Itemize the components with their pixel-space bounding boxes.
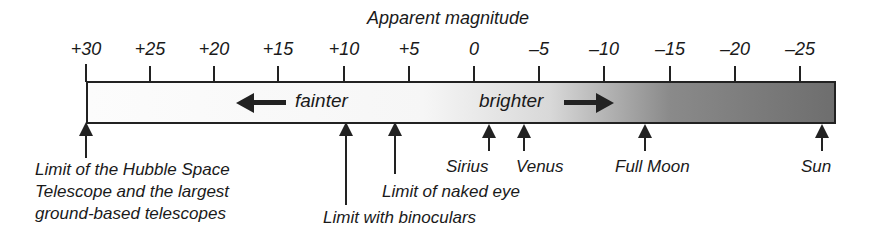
tick-label: –5: [529, 39, 549, 60]
tick-mark: [473, 66, 475, 82]
magnitude-gradient-bar: [86, 81, 836, 124]
annotation-hubble: Limit of the Hubble Space Telescope and …: [35, 159, 230, 225]
up-arrow-icon: [85, 124, 87, 158]
annotation-sirius: Sirius: [446, 156, 489, 178]
annotation-naked-eye: Limit of naked eye: [382, 181, 520, 203]
up-arrow-icon: [523, 126, 525, 151]
tick-mark: [343, 66, 345, 82]
tick-mark: [213, 66, 215, 82]
tick-label: +20: [199, 39, 230, 60]
up-arrow-icon: [345, 124, 347, 205]
magnitude-diagram: Apparent magnitude +30 +25 +20 +15 +10 +…: [0, 0, 878, 251]
annotation-venus: Venus: [516, 156, 564, 178]
up-arrow-icon: [488, 126, 490, 151]
brighter-label: brighter: [479, 90, 543, 112]
tick-mark: [734, 66, 736, 82]
annotation-binoculars: Limit with binoculars: [323, 207, 476, 229]
annotation-sun: Sun: [801, 156, 831, 178]
tick-mark: [669, 66, 671, 82]
annotation-line: Telescope and the largest: [35, 181, 230, 203]
tick-label: –25: [785, 39, 815, 60]
tick-label: +10: [329, 39, 360, 60]
tick-label: –15: [655, 39, 685, 60]
right-arrow-icon: [564, 93, 614, 113]
diagram-title: Apparent magnitude: [367, 8, 529, 29]
tick-mark: [85, 64, 87, 82]
tick-mark: [149, 66, 151, 82]
tick-label: +5: [399, 39, 420, 60]
annotation-full-moon: Full Moon: [615, 156, 690, 178]
tick-mark: [799, 66, 801, 82]
left-arrow-icon: [236, 93, 286, 113]
tick-label: +25: [135, 39, 166, 60]
tick-label: +15: [263, 39, 294, 60]
tick-label: –10: [589, 39, 619, 60]
tick-label: –20: [720, 39, 750, 60]
annotation-line: Limit of the Hubble Space: [35, 159, 230, 181]
tick-label: +30: [71, 39, 102, 60]
fainter-label: fainter: [295, 90, 348, 112]
tick-mark: [538, 66, 540, 82]
tick-mark: [603, 66, 605, 82]
up-arrow-icon: [394, 124, 396, 174]
tick-mark: [408, 66, 410, 82]
up-arrow-icon: [644, 126, 646, 151]
annotation-line: ground-based telescopes: [35, 203, 230, 225]
tick-mark: [277, 66, 279, 82]
up-arrow-icon: [821, 126, 823, 151]
tick-label: 0: [469, 39, 479, 60]
